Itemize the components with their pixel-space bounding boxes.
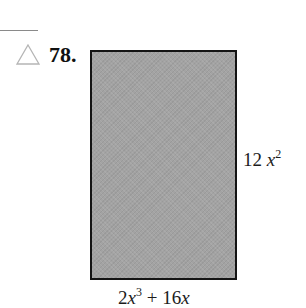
width-term1-coefficient: 2 bbox=[118, 287, 128, 308]
width-term1-variable: x bbox=[128, 287, 136, 308]
width-term1-exponent: 3 bbox=[136, 285, 142, 299]
rectangle-width-label: 2x3 + 16x bbox=[118, 288, 190, 308]
height-coefficient: 12 bbox=[243, 149, 262, 170]
rectangle-figure bbox=[90, 50, 237, 280]
problem-number: 78. bbox=[49, 43, 77, 67]
width-operator: + bbox=[147, 287, 158, 308]
triangle-outline-icon bbox=[16, 44, 40, 65]
height-variable: x bbox=[267, 149, 275, 170]
height-exponent: 2 bbox=[275, 147, 281, 161]
section-divider-rule bbox=[0, 30, 38, 31]
width-term2-variable: x bbox=[181, 287, 189, 308]
width-term2-coefficient: 16 bbox=[162, 287, 181, 308]
rectangle-height-label: 12 x2 bbox=[243, 150, 281, 172]
